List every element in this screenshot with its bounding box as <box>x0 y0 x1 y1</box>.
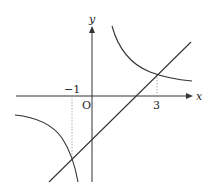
x-axis-arrow-icon <box>186 93 193 99</box>
straight-line <box>49 42 191 182</box>
x-axis-label: x <box>196 90 203 103</box>
function-graph: y x O −1 3 <box>0 0 214 194</box>
x-axis <box>16 93 193 99</box>
origin-label: O <box>82 99 91 112</box>
tick-label-neg1: −1 <box>64 83 80 96</box>
y-axis-label: y <box>88 13 96 26</box>
tick-label-3: 3 <box>153 99 160 112</box>
hyperbola-lower-branch <box>15 115 78 182</box>
y-axis-arrow-icon <box>89 26 95 33</box>
